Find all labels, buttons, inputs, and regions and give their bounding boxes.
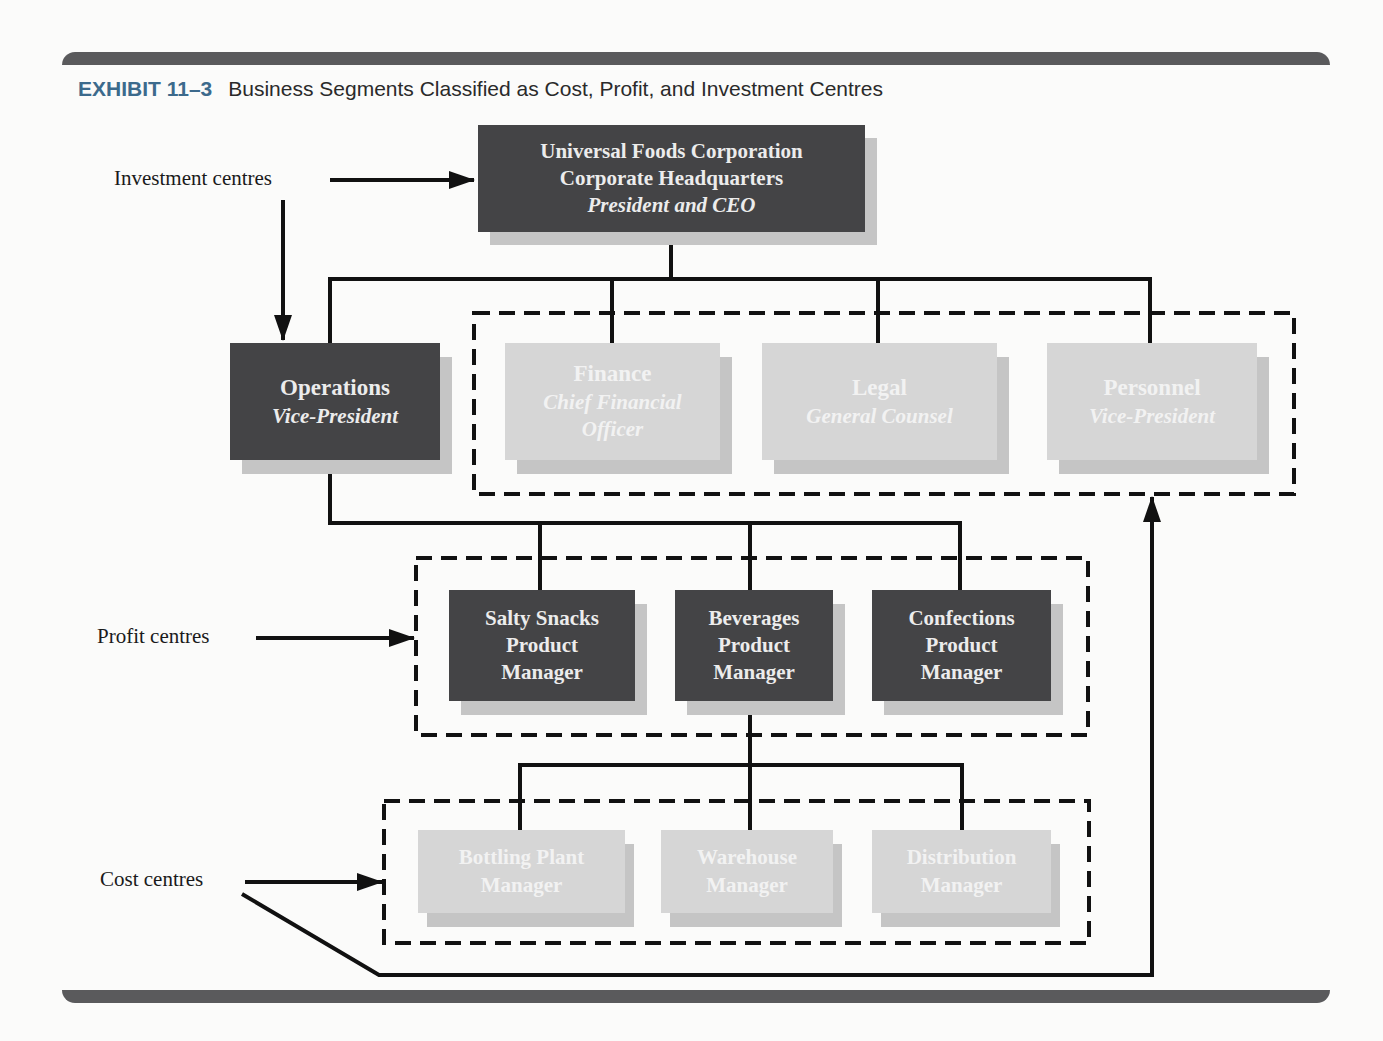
- node-beverages: Beverages Product Manager: [675, 590, 833, 701]
- beverages-line2: Product: [718, 632, 790, 659]
- node-legal: Legal General Counsel: [762, 343, 997, 460]
- hq-unit: Corporate Headquarters: [560, 165, 783, 192]
- salty-snacks-line2: Product: [506, 632, 578, 659]
- label-profit-centres: Profit centres: [97, 624, 210, 649]
- operations-role: Vice-President: [272, 403, 398, 430]
- node-distribution: Distribution Manager: [872, 830, 1051, 913]
- hq-role: President and CEO: [587, 192, 755, 219]
- node-bottling-plant: Bottling Plant Manager: [418, 830, 625, 913]
- label-cost-centres: Cost centres: [100, 867, 203, 892]
- finance-role-line2: Officer: [582, 416, 643, 443]
- node-salty-snacks: Salty Snacks Product Manager: [449, 590, 635, 701]
- operations-connectors: [330, 460, 960, 590]
- confections-line3: Manager: [921, 659, 1003, 686]
- personnel-name: Personnel: [1103, 373, 1200, 403]
- finance-name: Finance: [574, 359, 652, 389]
- bottom-frame-bar: [62, 990, 1330, 1003]
- hq-connectors: [330, 232, 1150, 343]
- hq-company: Universal Foods Corporation: [540, 138, 803, 165]
- distribution-line1: Distribution: [907, 844, 1017, 871]
- confections-line2: Product: [926, 632, 998, 659]
- node-personnel: Personnel Vice-President: [1047, 343, 1257, 460]
- bottling-line1: Bottling Plant: [459, 844, 584, 871]
- operations-name: Operations: [280, 373, 390, 403]
- beverages-line3: Manager: [713, 659, 795, 686]
- node-hq: Universal Foods Corporation Corporate He…: [478, 125, 865, 232]
- salty-snacks-line1: Salty Snacks: [485, 605, 599, 632]
- node-finance: Finance Chief Financial Officer: [505, 343, 720, 460]
- salty-snacks-line3: Manager: [501, 659, 583, 686]
- distribution-line2: Manager: [921, 872, 1003, 899]
- legal-role: General Counsel: [806, 403, 952, 430]
- bottling-line2: Manager: [481, 872, 563, 899]
- node-warehouse: Warehouse Manager: [661, 830, 833, 913]
- beverages-line1: Beverages: [709, 605, 800, 632]
- finance-role-line1: Chief Financial: [543, 389, 681, 416]
- warehouse-line2: Manager: [706, 872, 788, 899]
- node-operations: Operations Vice-President: [230, 343, 440, 460]
- label-investment-centres: Investment centres: [114, 166, 272, 191]
- legal-name: Legal: [852, 373, 907, 403]
- confections-line1: Confections: [908, 605, 1014, 632]
- warehouse-line1: Warehouse: [697, 844, 797, 871]
- beverages-connectors: [520, 701, 962, 830]
- node-confections: Confections Product Manager: [872, 590, 1051, 701]
- personnel-role: Vice-President: [1089, 403, 1215, 430]
